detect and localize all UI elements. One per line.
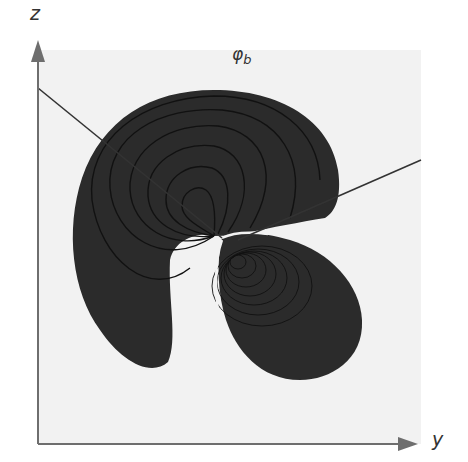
- phi-subscript: b: [243, 52, 251, 67]
- figure-canvas: [0, 0, 468, 462]
- orbital-contour-figure: z y φb: [0, 0, 468, 462]
- y-axis-label: y: [432, 428, 443, 450]
- phi-symbol: φ: [232, 44, 243, 64]
- phi-b-label: φb: [232, 44, 251, 67]
- z-axis-label: z: [30, 2, 40, 24]
